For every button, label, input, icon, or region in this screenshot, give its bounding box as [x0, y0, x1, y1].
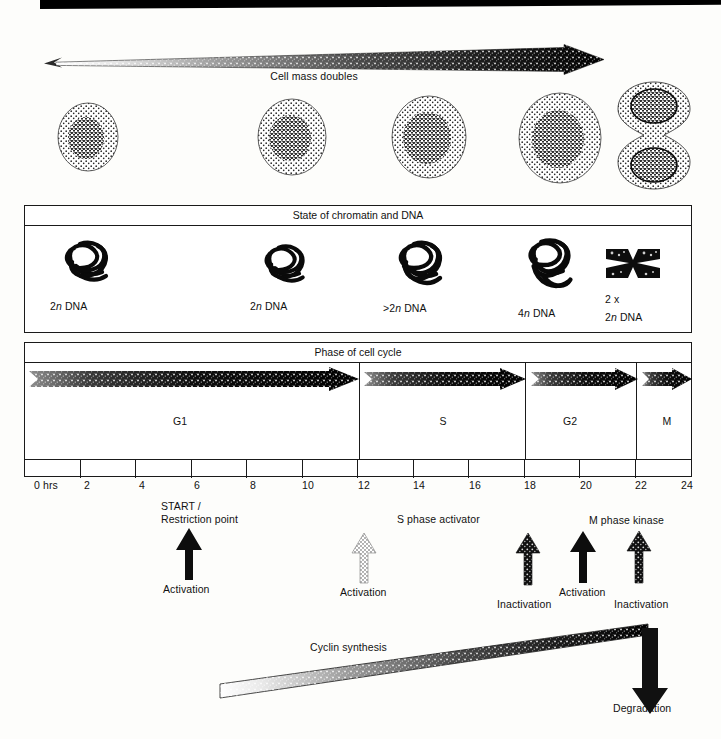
phase-of-cell-cycle-panel: Phase of cell cycle — [24, 342, 692, 460]
phase-divider-g1-s — [359, 362, 360, 459]
chromatin-label-2: 2n DNA — [250, 300, 287, 313]
cell-2-g1-late — [255, 97, 329, 177]
time-label-24: 24 — [681, 479, 693, 492]
s-phase-activation-arrow-icon — [352, 533, 376, 583]
start-activation-arrow-icon — [176, 528, 202, 580]
phase-label-m: M — [639, 415, 695, 428]
condensed-chromosome-icon — [604, 247, 662, 281]
chromatin-label-3: >2n DNA — [383, 302, 427, 315]
ruler-tick-8 — [246, 460, 247, 478]
ruler-tick-6 — [191, 460, 192, 478]
m-phase-activation-label: Activation — [559, 586, 606, 599]
s-phase-activator-title: S phase activator — [397, 513, 480, 526]
time-axis-ruler — [24, 459, 692, 477]
cell-3-s — [389, 94, 469, 180]
start-restriction-title-line2: Restriction point — [161, 513, 238, 526]
chromatin-panel-title: State of chromatin and DNA — [25, 206, 691, 226]
m-phase-activation-arrow-icon — [570, 531, 596, 583]
s-phase-activation-label: Activation — [340, 586, 387, 599]
phase-label-g2: G2 — [530, 415, 610, 428]
ruler-tick-4 — [135, 460, 136, 478]
chromatin-label-1: 2n DNA — [50, 300, 87, 313]
chromatin-tangle-4 — [522, 237, 582, 299]
time-label-6: 6 — [194, 479, 200, 492]
phase-label-g1: G1 — [130, 415, 230, 428]
ruler-tick-18 — [524, 460, 525, 478]
ruler-tick-12 — [357, 460, 358, 478]
chromatin-tangle-3 — [392, 238, 454, 296]
time-label-18: 18 — [524, 479, 536, 492]
chromatin-label-5-line1: 2 x — [605, 293, 619, 306]
ruler-tick-16 — [468, 460, 469, 478]
s-phase-inactivation-label: Inactivation — [497, 598, 551, 611]
cell-5-mitosis — [612, 80, 696, 192]
start-activation-label: Activation — [163, 583, 210, 596]
cell-1-g1-early — [55, 100, 121, 174]
cyclin-synthesis-wedge — [218, 622, 678, 722]
cyclin-synthesis-label: Cyclin synthesis — [310, 641, 387, 654]
time-label-10: 10 — [302, 479, 314, 492]
scan-artifact-bar-solid — [40, 0, 721, 4]
ruler-tick-20 — [579, 460, 580, 478]
time-label-14: 14 — [413, 479, 425, 492]
chromatin-tangle-2 — [258, 242, 316, 294]
s-phase-inactivation-arrow-icon — [516, 533, 540, 585]
m-phase-kinase-title: M phase kinase — [589, 514, 664, 527]
ruler-tick-22 — [635, 460, 636, 478]
degradation-label: Degradation — [613, 702, 671, 715]
time-label-12: 12 — [358, 479, 370, 492]
ruler-tick-14 — [413, 460, 414, 478]
time-label-4: 4 — [139, 479, 145, 492]
chromatin-panel: State of chromatin and DNA — [24, 205, 692, 333]
chromatin-tangle-1 — [58, 238, 120, 294]
phase-arrow-g1 — [29, 367, 359, 391]
phase-arrow-g2 — [531, 368, 638, 390]
time-label-20: 20 — [580, 479, 592, 492]
time-label-8: 8 — [250, 479, 256, 492]
ruler-tick-2 — [80, 460, 81, 478]
time-label-0: 0 hrs — [34, 479, 58, 492]
phase-arrow-m — [642, 368, 692, 390]
cell-series-row — [0, 80, 721, 190]
phase-panel-title: Phase of cell cycle — [25, 343, 691, 363]
cell-4-g2 — [516, 91, 604, 185]
phase-label-s: S — [393, 415, 493, 428]
time-label-16: 16 — [469, 479, 481, 492]
chromatin-label-5-line2: 2n DNA — [605, 311, 642, 324]
time-label-22: 22 — [635, 479, 647, 492]
chromatin-label-4: 4n DNA — [518, 307, 555, 320]
time-label-2: 2 — [84, 479, 90, 492]
m-phase-inactivation-label: Inactivation — [614, 598, 668, 611]
start-restriction-title-line1: START / — [161, 500, 201, 513]
m-phase-inactivation-arrow-icon — [627, 531, 651, 583]
ruler-tick-10 — [302, 460, 303, 478]
phase-arrow-s — [364, 368, 526, 390]
